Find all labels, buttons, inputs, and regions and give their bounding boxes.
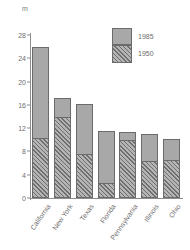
bar-segment-1950 (163, 160, 180, 198)
bar-segment-1950 (54, 117, 71, 199)
legend-swatch-1985 (112, 28, 132, 45)
x-axis-tick-label: New York (51, 203, 74, 231)
y-axis-tick-mark (27, 58, 30, 59)
legend-label-1950: 1950 (138, 50, 154, 57)
bar-segment-1950 (76, 154, 93, 198)
bar-segment-1950 (119, 140, 136, 198)
bar-stack (119, 132, 136, 198)
x-axis-tick-label: Illinois (143, 203, 160, 223)
bar-stack (32, 47, 49, 198)
x-axis-tick-label: Texas (79, 203, 95, 222)
y-axis-unit-label: m (22, 5, 28, 12)
bar-segment-1950 (32, 138, 49, 198)
y-axis-tick-mark (27, 174, 30, 175)
bar-segment-1950 (98, 183, 115, 198)
y-axis-tick-mark (27, 81, 30, 82)
bar-stack (54, 98, 71, 198)
bar-stack (163, 139, 180, 198)
bar-stack (141, 134, 158, 198)
legend-label-1985: 1985 (138, 33, 154, 40)
y-axis-tick-mark (27, 198, 30, 199)
legend: 1985 1950 (112, 28, 182, 70)
x-axis-line (30, 198, 183, 199)
bar-stack (98, 131, 115, 198)
bar-chart: m 0481216202428 1985 1950 CaliforniaNew … (0, 0, 190, 250)
y-axis-tick-mark (27, 35, 30, 36)
y-axis-tick-mark (27, 151, 30, 152)
x-axis-tick-label: California (29, 203, 52, 231)
x-axis-tick-label: Ohio (168, 203, 182, 219)
bar-segment-1950 (141, 161, 158, 198)
y-axis-tick-mark (27, 128, 30, 129)
bar-stack (76, 104, 93, 198)
legend-swatch-1950 (112, 45, 132, 63)
x-axis-tick-label: Florida (99, 203, 117, 225)
y-axis-tick-mark (27, 104, 30, 105)
